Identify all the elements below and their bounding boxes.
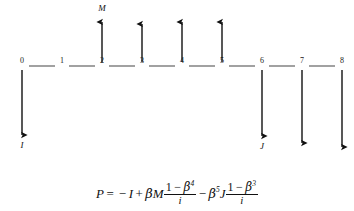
timeline-node-1: 1 [55,56,69,66]
formula-beta-1: β [145,186,153,201]
formula-minus-2: − [196,186,208,201]
formula-f1-one: 1 [166,180,172,194]
timeline-node-6: 6 [255,56,269,66]
formula-f2-minus: − [234,180,246,194]
flow-label-J: J [252,141,272,152]
formula-fraction-2-numerator: 1−β3 [226,181,258,195]
formula-fraction-1-denominator: i [164,195,196,207]
formula-f2-exponent: 3 [252,179,256,188]
cash-flow-arrows [22,22,342,147]
formula-beta-2: β [208,186,216,201]
formula-f1-minus: − [172,180,184,194]
timeline-node-4: 4 [175,56,189,66]
cash-flow-diagram-page: 012345678 IMJ P=−I+βM1−β4i−β5J1−β3i [0,0,354,211]
timeline-node-8: 8 [335,56,349,66]
formula-fraction-2-denominator: i [226,195,258,207]
timeline-node-3: 3 [135,56,149,66]
formula-minus-1: − [116,186,128,201]
formula-lhs: P [96,186,104,201]
formula-f1-exponent: 4 [190,179,194,188]
present-value-formula: P=−I+βM1−β4i−β5J1−β3i [0,182,354,207]
formula-equals: = [104,186,116,201]
formula-inflow-symbol: M [153,186,164,201]
timeline-node-2: 2 [95,56,109,66]
formula-fraction-2: 1−β3i [226,181,258,206]
timeline-node-7: 7 [295,56,309,66]
formula-fraction-1-numerator: 1−β4 [164,181,196,195]
formula-f2-one: 1 [228,180,234,194]
timeline-node-5: 5 [215,56,229,66]
flow-label-I: I [12,140,32,151]
formula-fraction-1: 1−β4i [164,181,196,206]
timeline-node-0: 0 [15,56,29,66]
formula-plus: + [133,186,145,201]
flow-label-M: M [92,3,112,14]
